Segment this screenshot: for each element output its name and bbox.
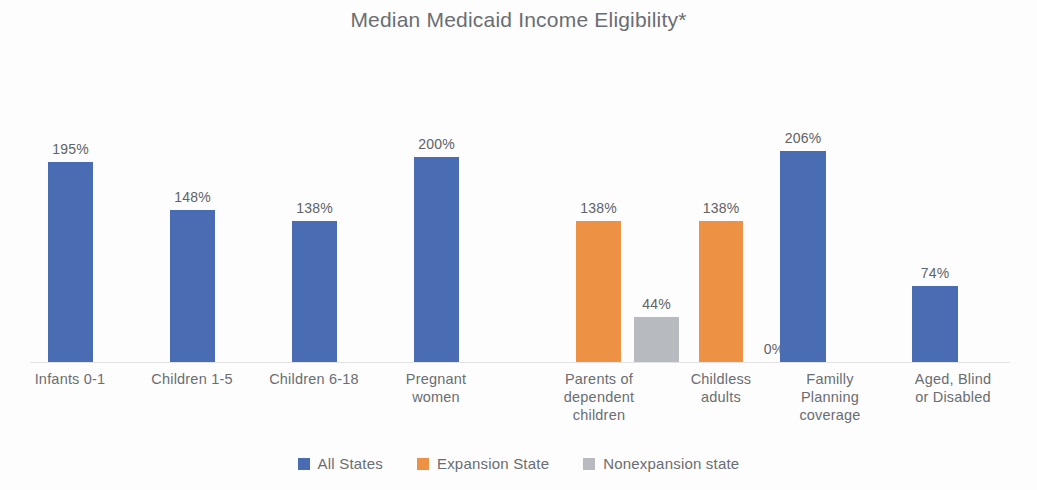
bar-value-label-childless-expansion: 138% xyxy=(687,200,755,216)
legend-label: All States xyxy=(318,455,383,472)
bar-value-label-pregnant-all-states: 200% xyxy=(402,136,471,152)
bar-value-label-children-6-18-all-states: 138% xyxy=(280,200,349,216)
bar-value-label-children-1-5-all-states: 148% xyxy=(158,189,227,205)
bar-aged-blind-all-states[interactable] xyxy=(912,286,958,362)
x-label-5: Parents ofdependentchildren xyxy=(529,370,669,424)
legend-item-3[interactable]: Nonexpansion state xyxy=(583,455,739,472)
legend-item-2[interactable]: Expansion State xyxy=(417,455,549,472)
chart-title: Median Medicaid Income Eligibility* xyxy=(0,8,1037,32)
x-label-2: Children 1-5 xyxy=(127,370,257,388)
legend-swatch-icon xyxy=(298,458,310,470)
bar-childless-expansion[interactable] xyxy=(699,221,743,362)
bar-value-label-infants-all-states: 195% xyxy=(36,141,105,157)
bar-children-6-18-all-states[interactable] xyxy=(292,221,337,362)
bar-value-label-family-planning-all-states: 206% xyxy=(768,130,838,146)
plot-area: 195%148%138%200%138%44%138%0%206%74% xyxy=(0,60,1037,365)
legend-swatch-icon xyxy=(583,458,595,470)
chart-container: Median Medicaid Income Eligibility* 195%… xyxy=(0,0,1037,490)
bar-children-1-5-all-states[interactable] xyxy=(170,210,215,362)
x-label-4: Pregnantwomen xyxy=(371,370,501,406)
bar-family-planning-all-states[interactable] xyxy=(780,151,826,362)
legend-label: Nonexpansion state xyxy=(603,455,739,472)
x-label-8: Aged, Blindor Disabled xyxy=(888,370,1018,406)
chart-legend: All StatesExpansion StateNonexpansion st… xyxy=(0,455,1037,472)
bar-value-label-aged-blind-all-states: 74% xyxy=(900,265,970,281)
x-label-1: Infants 0-1 xyxy=(5,370,135,388)
bar-value-label-parents-expansion: 138% xyxy=(564,200,633,216)
bar-value-label-parents-nonexpansion: 44% xyxy=(622,296,691,312)
x-label-3: Children 6-18 xyxy=(249,370,379,388)
bar-parents-nonexpansion[interactable] xyxy=(634,317,679,362)
legend-item-1[interactable]: All States xyxy=(298,455,383,472)
bar-infants-all-states[interactable] xyxy=(48,162,93,362)
x-label-6: Childlessadults xyxy=(660,370,782,406)
legend-label: Expansion State xyxy=(437,455,549,472)
bar-pregnant-all-states[interactable] xyxy=(414,157,459,362)
legend-swatch-icon xyxy=(417,458,429,470)
x-label-7: FamillyPlanningcoverage xyxy=(775,370,885,424)
axis-baseline xyxy=(30,362,1010,363)
x-axis-category-labels: Infants 0-1Children 1-5Children 6-18Preg… xyxy=(0,370,1037,445)
bar-parents-expansion[interactable] xyxy=(576,221,621,362)
